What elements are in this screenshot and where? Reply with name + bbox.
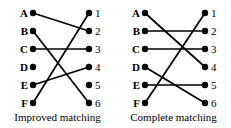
node-1 [202,10,208,16]
node-F [142,100,148,106]
node-2 [86,28,92,34]
node-label-right-5: 5 [95,80,111,91]
panel-improved-matching: A B C D E F 1 2 3 4 5 6 Improved matchin… [0,0,115,128]
node-label-left-C: C [124,44,140,55]
node-B [30,28,36,34]
node-E [30,82,36,88]
node-label-right-1: 1 [95,8,111,19]
node-A [142,10,148,16]
node-label-right-3: 3 [211,44,227,55]
node-label-left-A: A [12,8,28,19]
edge-group-complete [145,13,205,103]
edge-B-6 [33,31,89,103]
edge-group-improved [33,13,89,103]
node-4 [202,64,208,70]
node-label-right-1: 1 [211,8,227,19]
node-label-right-6: 6 [95,98,111,109]
node-E [142,82,148,88]
node-B [142,28,148,34]
panel-complete-matching: A B C D E F 1 2 3 4 5 6 Complete matchin… [116,0,231,128]
node-1 [86,10,92,16]
edge-E-4 [33,67,89,85]
node-label-right-4: 4 [95,62,111,73]
node-D [142,64,148,70]
node-label-right-6: 6 [211,98,227,109]
node-D [30,64,36,70]
bipartite-graph-improved: A B C D E F 1 2 3 4 5 6 [0,0,115,110]
node-label-left-B: B [124,26,140,37]
node-label-right-5: 5 [211,80,227,91]
bipartite-graph-complete: A B C D E F 1 2 3 4 5 6 [116,0,231,110]
node-label-left-E: E [124,80,140,91]
node-6 [202,100,208,106]
node-F [30,100,36,106]
node-label-right-3: 3 [95,44,111,55]
caption-complete-matching: Complete matching [116,110,231,124]
node-label-right-2: 2 [95,26,111,37]
node-6 [86,100,92,106]
node-3 [86,46,92,52]
node-5 [86,82,92,88]
node-label-left-B: B [12,26,28,37]
node-label-left-F: F [12,98,28,109]
node-5 [202,82,208,88]
edge-A-2 [33,13,89,31]
node-C [30,46,36,52]
node-label-right-2: 2 [211,26,227,37]
bipartite-matching-figure: A B C D E F 1 2 3 4 5 6 Improved matchin… [0,0,231,128]
caption-improved-matching: Improved matching [0,110,115,124]
node-2 [202,28,208,34]
node-label-left-A: A [124,8,140,19]
node-4 [86,64,92,70]
node-A [30,10,36,16]
node-label-left-D: D [124,62,140,73]
edge-F-1 [33,13,89,103]
node-label-right-4: 4 [211,62,227,73]
node-label-left-C: C [12,44,28,55]
node-3 [202,46,208,52]
node-C [142,46,148,52]
node-label-left-E: E [12,80,28,91]
node-label-left-D: D [12,62,28,73]
node-label-left-F: F [124,98,140,109]
